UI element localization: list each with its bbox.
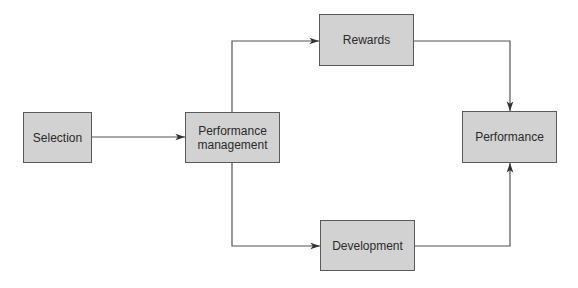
edge-rewards-to-performance xyxy=(414,41,510,111)
node-label: Selection xyxy=(33,131,82,145)
edge-performance-management-to-rewards xyxy=(232,41,319,112)
edge-performance-management-to-development xyxy=(232,163,320,246)
node-label: Performance management xyxy=(197,124,267,152)
node-rewards: Rewards xyxy=(319,14,414,66)
node-performance-management: Performance management xyxy=(185,112,280,163)
node-development: Development xyxy=(320,220,415,271)
node-performance: Performance xyxy=(462,111,557,163)
node-selection: Selection xyxy=(23,112,92,163)
node-label: Rewards xyxy=(343,33,390,47)
node-label: Performance xyxy=(475,130,544,144)
edge-development-to-performance xyxy=(415,163,510,246)
node-label: Development xyxy=(332,239,403,253)
